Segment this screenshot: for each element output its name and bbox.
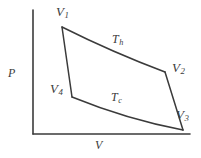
vertex-label-v1: V1 xyxy=(56,5,69,20)
vertex-label-v3: V3 xyxy=(176,108,189,123)
vertex-label-v2: V2 xyxy=(172,61,185,76)
pv-diagram-canvas xyxy=(0,0,201,158)
pv-diagram-figure: P V V1 V2 V3 V4 Th Tc xyxy=(0,0,201,158)
x-axis-label: V xyxy=(95,139,102,151)
isotherm-label-tc: Tc xyxy=(111,91,122,105)
vertex-label-v4: V4 xyxy=(50,82,63,97)
isotherm-tc-curve xyxy=(72,97,183,130)
isotherm-label-th: Th xyxy=(112,33,123,47)
adiabat-v1-v4-line xyxy=(62,27,72,97)
y-axis-label: P xyxy=(8,67,15,79)
